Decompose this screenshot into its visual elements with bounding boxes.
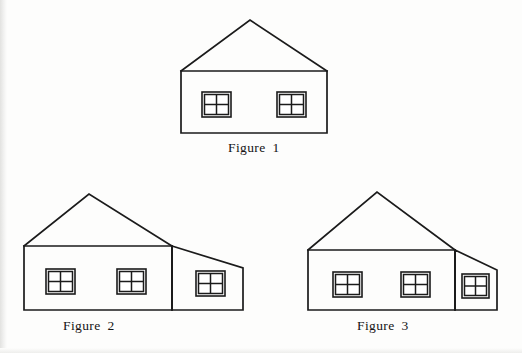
- figure-2-caption: Figure 2: [63, 318, 115, 334]
- figure-1-window-left: [202, 92, 231, 117]
- figure-1-roof: [181, 20, 327, 71]
- figure-2-window-2: [117, 269, 146, 294]
- figure-3-caption: Figure 3: [357, 318, 409, 334]
- figure-3-window-3: [462, 274, 489, 298]
- figure-page: Figure 1 Figure 2 Figure 3: [0, 0, 522, 353]
- figure-3-window-2: [401, 272, 430, 297]
- figure-3-window-1: [333, 272, 362, 297]
- figure-2-roof: [24, 194, 172, 246]
- figure-1-drawing: [181, 20, 327, 133]
- figure-3-drawing: [308, 192, 497, 310]
- figure-2-drawing: [24, 194, 243, 310]
- figure-3-main-body: [308, 250, 455, 310]
- figure-1-caption: Figure 1: [228, 140, 280, 156]
- figure-2-window-3: [196, 271, 225, 296]
- figure-2-window-1: [46, 269, 75, 294]
- figure-3-roof: [308, 192, 455, 250]
- figure-1-window-right: [277, 92, 306, 117]
- figures-canvas: [0, 0, 522, 353]
